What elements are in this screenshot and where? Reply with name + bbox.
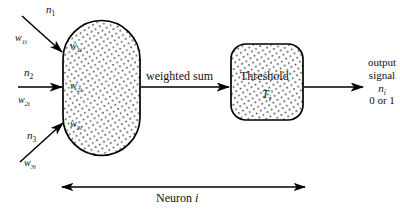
neuron-diagram: n1 w1i n2 w2i n3 w3i w1i w2i w3i weighte… (0, 0, 400, 215)
input-weight-label-2: w2i (18, 95, 30, 106)
neuron-span-label: Neuron i (156, 192, 198, 205)
threshold-symbol-label: Ti (262, 88, 271, 101)
output-label-line4: 0 or 1 (364, 95, 400, 107)
output-label-line2: signal (364, 70, 400, 82)
input-signal-label-1: n1 (46, 4, 55, 16)
threshold-label: Threshold (240, 70, 289, 83)
input-signal-label-2: n2 (24, 67, 33, 79)
input-weight-label-3: w3i (24, 158, 36, 169)
weighted-sum-label: weighted sum (146, 70, 213, 83)
neuron-weight-label-2: w2i (70, 81, 82, 92)
output-label-line1: output (364, 57, 400, 69)
neuron-weight-label-3: w3i (70, 119, 82, 130)
input-signal-label-3: n3 (27, 130, 36, 142)
neuron-weight-label-1: w1i (70, 41, 82, 52)
input-weight-label-1: w1i (15, 33, 27, 44)
input-arrow-1 (22, 16, 62, 52)
diagram-vector-layer (0, 0, 400, 215)
